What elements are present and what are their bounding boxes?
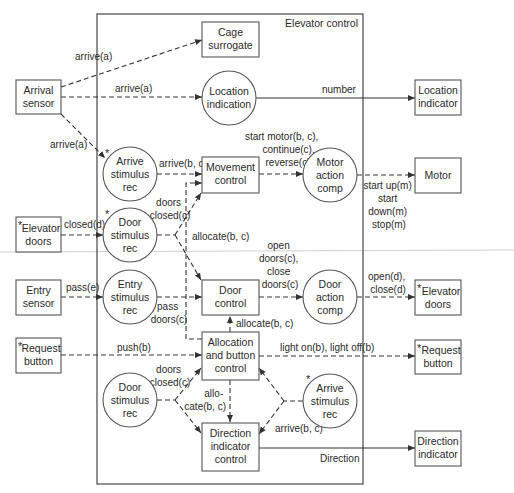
label-allocate-bc-mid: allocate(b, c) <box>192 231 249 242</box>
svg-text:Directionindicatorcontrol: Directionindicatorcontrol <box>210 427 252 465</box>
svg-text:Motor: Motor <box>425 169 452 181</box>
process-door-action-comp[interactable]: Dooractioncomp <box>303 270 357 324</box>
process-motor-action-comp[interactable]: Motoractioncomp <box>303 148 357 202</box>
label-allocate-bc-down: allo- cate(b, c) <box>184 388 226 412</box>
svg-text:Dooractioncomp: Dooractioncomp <box>316 278 344 316</box>
svg-text:Locationindicator: Locationindicator <box>418 84 458 109</box>
flow-allocate-movement <box>186 183 202 339</box>
svg-text:Doorcontrol: Doorcontrol <box>215 284 247 309</box>
box-movement-control[interactable]: Movementcontrol <box>202 157 259 193</box>
process-arrive-stimulus-rec-top[interactable]: * Arrivestimulusrec <box>103 147 157 201</box>
multiplicity-star: * <box>105 208 110 220</box>
label-doors-closed-bottom: doors closed(c) <box>150 364 191 388</box>
flow-arrive-cage <box>61 40 202 87</box>
entity-request-button-input[interactable]: * Requestbutton <box>16 338 61 373</box>
multiplicity-star: * <box>306 373 311 385</box>
label-push-b: push(b) <box>117 342 151 353</box>
svg-text:Arrivalsensor: Arrivalsensor <box>23 84 55 109</box>
label-pass-e: pass(e) <box>66 282 99 293</box>
process-door-stimulus-rec-bottom[interactable]: Doorstimulusrec <box>103 373 157 427</box>
label-arrive-a-cage: arrive(a) <box>75 51 112 62</box>
entity-direction-indicator[interactable]: Directionindicator <box>415 431 461 466</box>
entity-elevator-doors-output[interactable]: * Elevatordoors <box>415 280 461 315</box>
label-arrive-a-location: arrive(a) <box>115 83 152 94</box>
svg-text:Directionindicator: Directionindicator <box>417 435 459 460</box>
process-door-stimulus-rec-top[interactable]: * Doorstimulusrec <box>103 208 157 262</box>
label-arrive-bc: arrive(b, c) <box>159 158 207 169</box>
entity-location-indicator[interactable]: Locationindicator <box>415 80 461 115</box>
entity-entry-sensor[interactable]: Entrysensor <box>16 280 61 315</box>
elevator-control-diagram: Elevator control arrive(a) arrive(a) arr… <box>0 0 514 493</box>
label-closed-d: closed(d) <box>64 219 105 230</box>
flow-arrive-stimulus <box>61 114 105 158</box>
label-arrive-bc-bottom: arrive(b, c) <box>275 423 323 434</box>
scan-artifact-line <box>0 250 514 252</box>
frame-title: Elevator control <box>285 17 358 29</box>
label-open-close-doors: open doors(c), close doors(c) <box>259 240 301 290</box>
svg-text:Locationindication: Locationindication <box>207 85 252 110</box>
entity-motor[interactable]: Motor <box>415 158 461 193</box>
label-arrive-a-stimulus: arrive(a) <box>50 139 87 150</box>
label-motor-commands: start up(m) start down(m) stop(m) <box>363 180 414 230</box>
process-entry-stimulus-rec[interactable]: Entrystimulusrec <box>103 270 157 324</box>
label-allocate-bc-up: allocate(b, c) <box>236 318 293 329</box>
svg-text:Entrysensor: Entrysensor <box>23 284 55 309</box>
box-cage-surrogate[interactable]: Cagesurrogate <box>202 22 259 57</box>
box-direction-indicator-control[interactable]: Directionindicatorcontrol <box>202 423 259 471</box>
label-open-close-d: open(d), close(d) <box>368 271 408 295</box>
box-door-control[interactable]: Doorcontrol <box>202 280 259 315</box>
multiplicity-star: * <box>105 147 110 159</box>
entity-arrival-sensor[interactable]: Arrivalsensor <box>16 80 61 114</box>
label-light-on-off: light on(b), light off(b) <box>280 342 374 353</box>
process-arrive-stimulus-rec-bottom[interactable]: * Arrivestimulusrec <box>303 373 357 428</box>
entity-elevator-doors-input[interactable]: * Elevatordoors <box>16 217 61 252</box>
label-direction: Direction <box>320 453 359 464</box>
process-location-indication[interactable]: Locationindication <box>202 71 256 125</box>
entity-request-button-output[interactable]: * Requestbutton <box>415 340 461 374</box>
label-number: number <box>322 84 357 95</box>
flow-arrive-allocation <box>259 368 284 401</box>
svg-text:Motoractioncomp: Motoractioncomp <box>316 156 344 194</box>
label-doors-closed-top: doors closed(c) <box>150 197 191 221</box>
box-allocation-button-control[interactable]: Allocationand buttoncontrol <box>202 332 259 380</box>
